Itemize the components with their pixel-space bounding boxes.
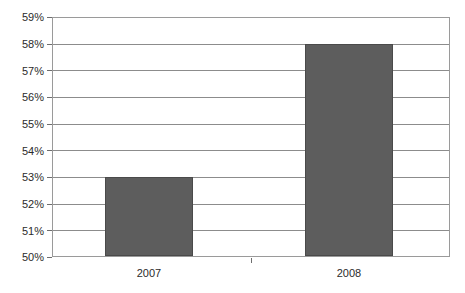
y-axis-tick-text: 51% — [22, 225, 44, 237]
bar-2007[interactable] — [105, 177, 193, 256]
y-axis-tick-label: 59% — [4, 12, 44, 23]
y-axis-tick-text: 54% — [22, 145, 44, 157]
y-axis-tick-label: 50% — [4, 252, 44, 263]
y-axis-tick-label: 53% — [4, 172, 44, 183]
y-axis-tick-text: 58% — [22, 38, 44, 50]
y-axis-tick-label: 52% — [4, 199, 44, 210]
y-axis-tick-text: 57% — [22, 65, 44, 77]
y-axis-tick-text: 59% — [22, 11, 44, 23]
y-axis-tick-mark — [47, 257, 52, 258]
y-axis-tick-text: 55% — [22, 118, 44, 130]
y-axis-tick-text: 53% — [22, 171, 44, 183]
bar-chart: 59% 58% 57% 56% 55% 54% 53% 52% 51% 50% … — [0, 0, 465, 293]
y-axis-tick-label: 54% — [4, 146, 44, 157]
x-axis-label-text: 2007 — [137, 267, 161, 279]
plot-area — [52, 17, 450, 257]
y-axis-tick-text: 52% — [22, 198, 44, 210]
y-axis-tick-label: 55% — [4, 119, 44, 130]
y-axis-tick-label: 58% — [4, 39, 44, 50]
x-axis-tick-mark — [251, 258, 252, 263]
y-axis-tick-text: 50% — [22, 251, 44, 263]
y-axis-tick-label: 56% — [4, 92, 44, 103]
bar-2008[interactable] — [305, 44, 393, 256]
y-axis-tick-label: 51% — [4, 226, 44, 237]
y-axis-tick-label: 57% — [4, 66, 44, 77]
y-axis-tick-text: 56% — [22, 91, 44, 103]
x-axis-label-2007: 2007 — [105, 268, 193, 279]
x-axis-label-2008: 2008 — [305, 268, 393, 279]
x-axis-label-text: 2008 — [337, 267, 361, 279]
